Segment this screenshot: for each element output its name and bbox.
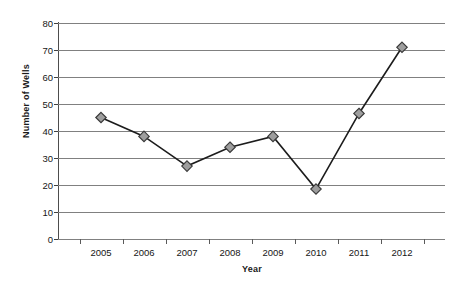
x-tick-label: 2008: [219, 247, 240, 258]
x-tick-label: 2012: [391, 247, 412, 258]
x-tick-mark: [338, 239, 339, 244]
data-point-marker: [354, 108, 364, 118]
x-axis-title: Year: [58, 264, 446, 274]
x-tick-mark: [166, 239, 167, 244]
y-tick-label: 60: [42, 72, 53, 83]
data-point-marker: [397, 42, 407, 52]
series-line: [101, 47, 402, 189]
x-tick-label: 2009: [262, 247, 283, 258]
x-tick-mark: [209, 239, 210, 244]
x-tick-label: 2005: [90, 247, 111, 258]
line-chart: Number of Wells 01020304050607080 200520…: [0, 0, 462, 288]
series-plot: [58, 23, 445, 239]
y-tick-label: 0: [48, 234, 53, 245]
x-tick-mark: [381, 239, 382, 244]
x-tick-label: 2010: [305, 247, 326, 258]
y-tick-label: 70: [42, 45, 53, 56]
plot-area: 01020304050607080 2005200620072008200920…: [58, 23, 445, 239]
data-point-marker: [139, 131, 149, 141]
x-tick-mark: [295, 239, 296, 244]
x-tick-mark: [252, 239, 253, 244]
data-point-marker: [182, 161, 192, 171]
y-tick-label: 40: [42, 126, 53, 137]
y-tick-label: 50: [42, 99, 53, 110]
x-tick-mark: [123, 239, 124, 244]
y-tick-label: 80: [42, 18, 53, 29]
y-tick-label: 20: [42, 180, 53, 191]
x-tick-mark: [424, 239, 425, 244]
x-tick-label: 2006: [133, 247, 154, 258]
data-point-marker: [96, 112, 106, 122]
y-tick-label: 30: [42, 153, 53, 164]
x-tick-mark: [80, 239, 81, 244]
y-axis-title: Number of Wells: [21, 31, 31, 171]
x-tick-label: 2007: [176, 247, 197, 258]
data-point-marker: [225, 142, 235, 152]
y-tick-label: 10: [42, 207, 53, 218]
x-tick-label: 2011: [349, 247, 369, 258]
y-tick-mark: [54, 239, 58, 240]
